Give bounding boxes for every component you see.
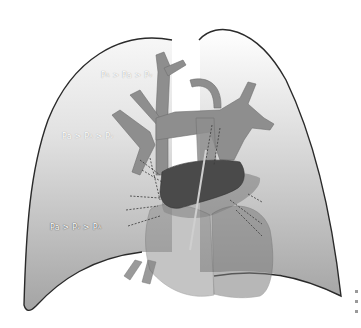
zone-2-label: Pa > PA > Pv [62,132,113,141]
edge-marks [355,290,359,320]
zone-3-label: Pa > Pv > PA [50,223,101,232]
heart [146,160,273,298]
lung-zones-diagram [0,0,361,328]
zone-1-label: PA > Pa > Pv [101,71,152,80]
